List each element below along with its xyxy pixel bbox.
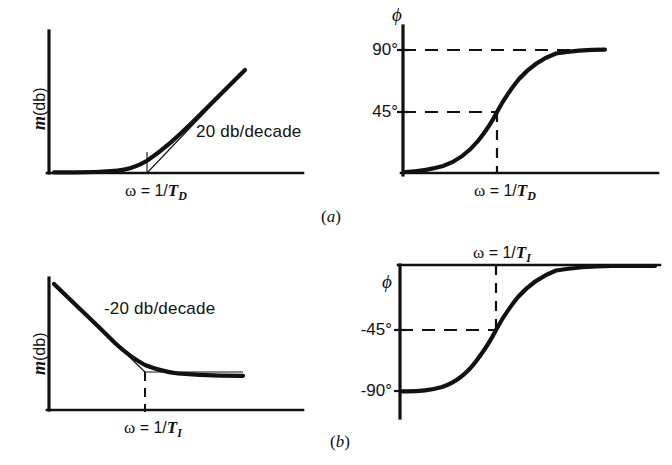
slope-annotation-top-left: 20 db/decade [196,123,301,140]
caption-a: (a) [321,208,341,225]
ytick-label-45: 45° [358,103,398,120]
time-constant-subscript-bottom-right: I [526,251,531,265]
time-constant-bottom-left: T [167,418,177,437]
y-axis-label-var-top-left: m [29,116,49,130]
omega-symbol-bottom-right: ω [473,243,484,262]
break-frequency-label-top-right: ω = 1/TD [474,182,536,202]
y-axis-label-var-bottom-left: m [29,361,49,375]
figure-canvas [0,0,672,465]
break-frequency-label-top-left: ω = 1/TD [125,182,187,202]
equals-sign-bottom-right: = [484,244,502,261]
panel-top-left-axes [47,31,303,173]
equals-sign-top-right: = [485,182,503,199]
time-constant-top-left: T [168,181,178,200]
slope-annotation-bottom-left: -20 db/decade [104,300,215,317]
curve-phase-integral [402,266,655,391]
one-over-bottom-left: 1/ [153,419,166,436]
caption-a-letter: a [327,207,336,226]
time-constant-subscript-top-right: D [527,189,536,203]
y-axis-label-top-left: m(db) [30,88,48,130]
y-axis-label-unit-bottom-left: (db) [31,333,48,361]
time-constant-bottom-right: T [516,243,526,262]
time-constant-subscript-top-left: D [178,189,187,203]
curve-magnitude-integral [54,284,243,376]
y-axis-label-top-right: ϕ [392,5,402,24]
caption-b-letter: b [336,432,345,451]
y-axis-label-unit-top-left: (db) [31,88,48,116]
omega-symbol-top-right: ω [474,181,485,200]
panel-top-right-axes [401,26,658,175]
omega-symbol-top-left: ω [125,181,136,200]
time-constant-top-right: T [517,181,527,200]
equals-sign-bottom-left: = [135,419,153,436]
ytick-label-90: 90° [358,41,398,58]
break-frequency-label-bottom-right: ω = 1/TI [473,244,531,264]
time-constant-subscript-bottom-left: I [177,426,182,440]
ytick-label-neg45: -45° [340,321,392,338]
y-axis-label-bottom-left: m(db) [30,333,48,375]
one-over-top-right: 1/ [503,182,516,199]
curve-phase-derivative [405,50,605,172]
one-over-top-left: 1/ [154,182,167,199]
omega-symbol-bottom-left: ω [124,418,135,437]
ytick-label-neg90: -90° [340,382,392,399]
equals-sign-top-left: = [136,182,154,199]
bode-plot-figure: m(db) 20 db/decade ω = 1/TD ϕ 90° 45° ω … [0,0,672,465]
y-axis-label-bottom-right: ϕ [382,272,392,291]
break-frequency-label-bottom-left: ω = 1/TI [124,419,182,439]
panel-bottom-left-axes [47,278,303,410]
caption-b: (b) [330,433,350,450]
one-over-bottom-right: 1/ [502,244,515,261]
